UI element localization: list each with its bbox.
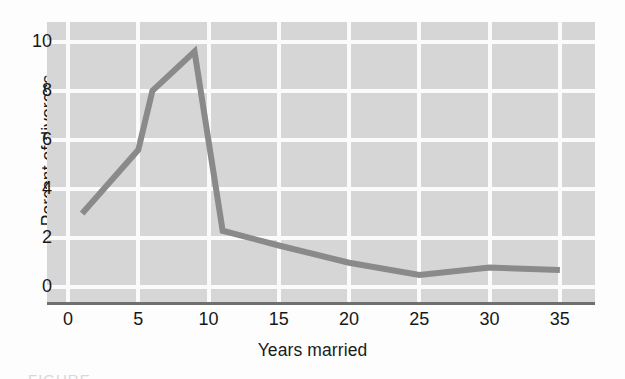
x-tick-label-15: 15 xyxy=(254,309,304,330)
x-tick-label-10: 10 xyxy=(184,309,234,330)
data-series-line xyxy=(47,22,595,302)
figure-caption-partial: FIGURE xyxy=(28,371,91,379)
y-tick-label-0: 0 xyxy=(12,276,52,297)
x-tick-label-20: 20 xyxy=(324,309,374,330)
x-tick-label-35: 35 xyxy=(535,309,585,330)
x-tick-label-25: 25 xyxy=(394,309,444,330)
plot-area xyxy=(47,22,595,302)
x-tick-label-30: 30 xyxy=(465,309,515,330)
y-tick-label-8: 8 xyxy=(12,79,52,100)
y-tick-label-2: 2 xyxy=(12,227,52,248)
y-tick-label-10: 10 xyxy=(12,30,52,51)
divorce-rate-line-chart: Percent of divorces 0246810 051015202530… xyxy=(0,0,625,379)
x-tick-label-0: 0 xyxy=(43,309,93,330)
x-axis-line xyxy=(47,302,595,305)
x-axis-title: Years married xyxy=(0,340,625,361)
y-tick-label-4: 4 xyxy=(12,178,52,199)
y-tick-label-6: 6 xyxy=(12,128,52,149)
x-tick-label-5: 5 xyxy=(113,309,163,330)
